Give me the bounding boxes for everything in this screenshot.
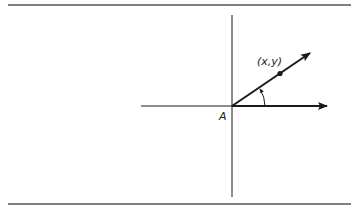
origin-label: A <box>218 110 227 123</box>
point-marker <box>277 71 282 76</box>
diagram: (x,y) A <box>0 0 351 208</box>
point-label: (x,y) <box>257 55 282 68</box>
angle-arc <box>260 89 265 106</box>
